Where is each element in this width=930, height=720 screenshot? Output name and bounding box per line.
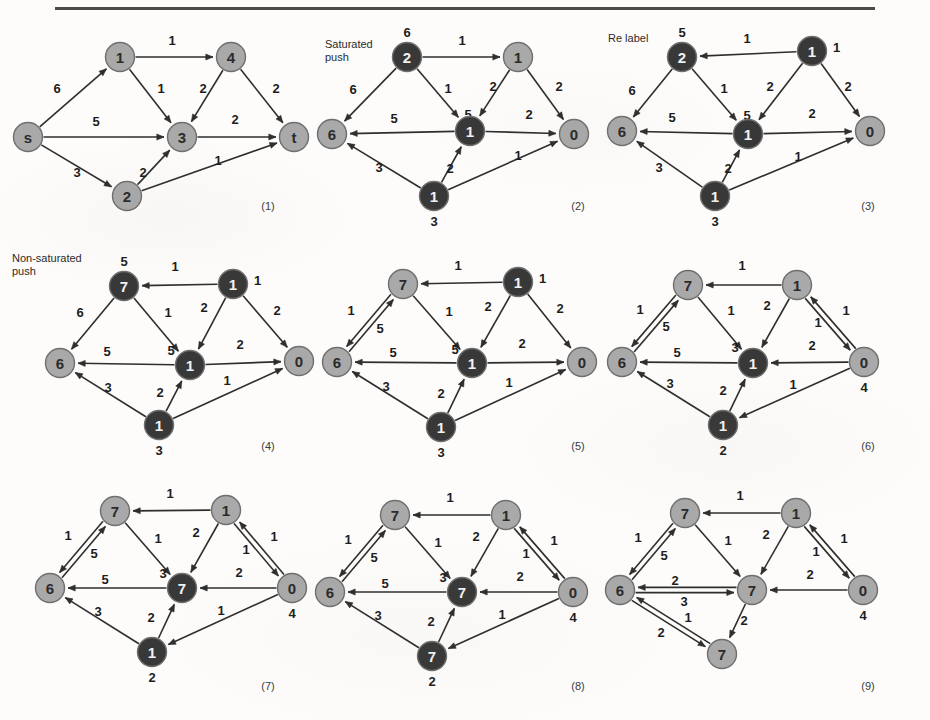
node-label: 1 [430, 188, 438, 205]
edge-weight-label: 2 [272, 81, 279, 96]
edge-weight-label: 1 [505, 375, 512, 390]
node-label: 1 [719, 417, 727, 434]
node-label: 6 [328, 126, 336, 143]
edge-weight-label: 6 [349, 82, 356, 97]
node-label: 1 [229, 276, 237, 293]
node-excess-label: 4 [859, 608, 867, 623]
graph-node-b: 11 [504, 268, 547, 297]
node-label: 7 [391, 507, 399, 524]
node-label: 1 [186, 357, 194, 374]
node-label: 6 [326, 584, 334, 601]
graph-panel-3: 16122523215251161013Re label(3) [600, 0, 930, 240]
node-label: 1 [808, 43, 816, 60]
graph-panel-9: 11222511123217167047(9) [600, 480, 930, 720]
edge-arrow-e-to-d [480, 589, 558, 595]
graph-node-d: 7 [738, 576, 767, 605]
node-label: 1 [222, 502, 230, 519]
edge-weight-label: 1 [454, 258, 461, 273]
edge-weight-label: 1 [458, 33, 465, 48]
graph-node-d: 1 [176, 351, 205, 380]
panel-caption: (3) [861, 200, 874, 212]
graph-node-f: 13 [145, 411, 174, 459]
edge-weight-label: 1 [842, 303, 849, 318]
graph-node-e: 04 [559, 578, 588, 626]
graph-panel-6: 112253215111371610412(6) [600, 240, 930, 480]
edge-arrow-n4-to-n3 [191, 70, 223, 121]
edge-weight-label: 2 [671, 573, 678, 588]
panel-caption: (6) [861, 440, 874, 452]
panel-caption: (9) [861, 680, 874, 692]
node-label: 6 [616, 582, 624, 599]
edge-arrow-b-to-e [821, 64, 859, 117]
edge-arrow-d-to-c [78, 360, 175, 366]
node-label: 0 [295, 353, 303, 370]
graph-node-b: 1 [504, 43, 533, 72]
edge-weight-label: 3 [73, 165, 80, 180]
edge-weight-label: 1 [789, 377, 796, 392]
edge-arrow-n2-to-t [142, 143, 277, 191]
graph-node-a: 7 [671, 499, 700, 528]
node-label: 3 [178, 129, 186, 146]
node-label: 0 [860, 354, 868, 371]
node-label: 0 [569, 584, 577, 601]
edge-arrow-c-to-f [632, 600, 706, 646]
graph-canvas-8: 112253215111371670472(8) [310, 480, 640, 720]
node-label: 0 [570, 126, 578, 143]
graph-node-d: 1 [739, 349, 768, 378]
edge-weight-label: 1 [445, 304, 452, 319]
edge-weight-label: 2 [806, 567, 813, 582]
edge-weight-label: 1 [223, 373, 230, 388]
edge-arrow-d-to-c [348, 589, 447, 595]
edge-weight-label: 2 [437, 386, 444, 401]
edge-weight-label: 1 [446, 490, 453, 505]
node-label: 1 [116, 49, 124, 66]
panel-caption: (8) [571, 680, 584, 692]
node-label: 1 [468, 355, 476, 372]
graph-node-c: 6 [608, 348, 637, 377]
graph-panel-1: 1612252321s143t2(1) [0, 0, 310, 240]
graph-node-c: 6 [316, 578, 345, 607]
edge-weight-label: 1 [840, 531, 847, 546]
edge-arrow-d-to-e [763, 129, 852, 135]
edge-weight-label: 2 [489, 79, 496, 94]
node-excess-label: 3 [155, 443, 162, 458]
node-label: 7 [428, 648, 436, 665]
node-label: 7 [178, 580, 186, 597]
graph-node-a: 26 [393, 25, 422, 72]
edge-weight-label: 5 [662, 319, 669, 334]
edge-weight-label: 1 [514, 148, 521, 163]
edge-arrow-b-to-a [142, 283, 218, 289]
node-label: 1 [792, 505, 800, 522]
edge-weight-label: 1 [344, 532, 351, 547]
edge-weight-label: 2 [200, 300, 207, 315]
edge-arrow-a-to-c [633, 69, 672, 117]
node-label: 7 [458, 584, 466, 601]
edge-weight-label: 1 [812, 544, 819, 559]
graph-node-d: 7 [448, 578, 477, 607]
graph-node-a: 7 [381, 501, 410, 530]
node-excess-label: 5 [120, 254, 127, 269]
graph-canvas-6: 112253215111371610412(6) [600, 240, 930, 480]
edge-weight-label: 5 [660, 548, 667, 563]
graph-canvas-2: 1612252321526161013Saturatedpush(2) [310, 0, 640, 240]
edge-weight-label: 1 [214, 153, 221, 168]
graph-node-f: 7 [708, 640, 737, 669]
edge-weight-side-label: 5 [451, 342, 458, 357]
edge-arrow-d-to-c [355, 359, 457, 365]
edge-arrow-f-to-d [159, 604, 175, 638]
edge-weight-label: 1 [634, 530, 641, 545]
node-excess-label: 2 [428, 674, 435, 689]
node-excess-label: 1 [833, 40, 840, 55]
node-label: 7 [111, 503, 119, 520]
graph-node-b: 1 [212, 496, 241, 525]
node-label: 0 [859, 582, 867, 599]
node-label: 1 [793, 277, 801, 294]
edge-weight-label: 2 [273, 303, 280, 318]
top-horizontal-rule [55, 7, 875, 10]
edge-weight-label: 2 [147, 610, 154, 625]
node-label: 1 [155, 417, 163, 434]
edge-weight-label: 1 [727, 303, 734, 318]
edge-weight-label: 5 [90, 546, 97, 561]
node-label: 0 [288, 580, 296, 597]
edge-arrow-f-to-d [730, 379, 745, 411]
